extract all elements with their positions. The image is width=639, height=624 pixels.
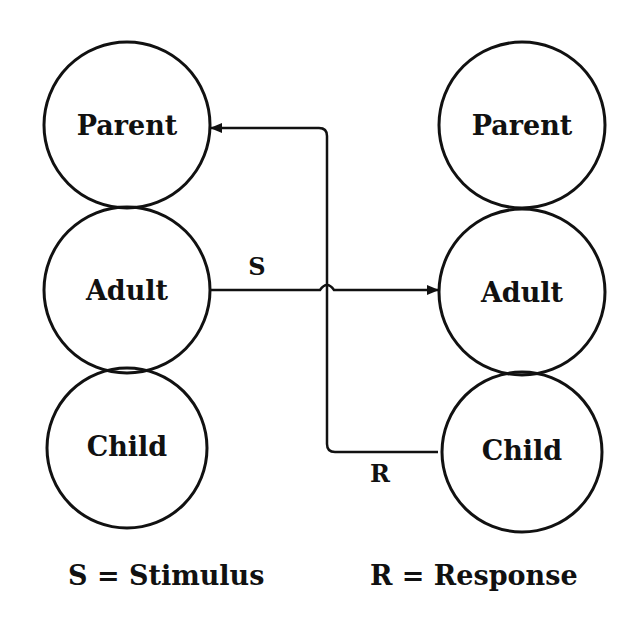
right-person: Parent Adult Child [439, 42, 605, 532]
right-parent-state: Parent [439, 42, 605, 208]
ego-state-diagram: Parent Adult Child Parent Adult Child S [0, 0, 639, 624]
left-person: Parent Adult Child [44, 42, 210, 528]
left-child-label: Child [87, 431, 168, 462]
left-adult-state: Adult [44, 207, 210, 373]
legend-response: R = Response [370, 560, 578, 591]
response-label: R [370, 459, 391, 488]
left-child-state: Child [47, 368, 207, 528]
right-adult-state: Adult [439, 209, 605, 375]
right-child-state: Child [442, 372, 602, 532]
right-adult-label: Adult [480, 277, 564, 308]
legend-stimulus: S = Stimulus [68, 560, 264, 591]
response-arrow: R [211, 128, 438, 488]
stimulus-arrow: S [210, 252, 438, 290]
right-child-label: Child [482, 435, 563, 466]
legend: S = Stimulus R = Response [68, 560, 578, 591]
left-adult-label: Adult [85, 275, 169, 306]
stimulus-label: S [248, 252, 265, 281]
right-parent-label: Parent [472, 110, 573, 141]
left-parent-label: Parent [77, 110, 178, 141]
left-parent-state: Parent [44, 42, 210, 208]
